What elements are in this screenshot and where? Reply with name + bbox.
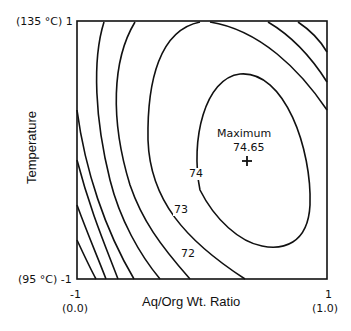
contour-label-74: 74 bbox=[188, 168, 204, 180]
y-top-tick: (135 °C) 1 bbox=[16, 15, 73, 28]
x-axis-title: Aq/Org Wt. Ratio bbox=[142, 294, 240, 309]
maximum-value: 74.65 bbox=[233, 141, 265, 154]
contour-72 bbox=[116, 22, 190, 279]
contour-label-72: 72 bbox=[180, 248, 196, 260]
x-right-actual: (1.0) bbox=[312, 302, 338, 315]
maximum-marker bbox=[242, 156, 252, 166]
y-bottom-tick: (95 °C) -1 bbox=[18, 273, 72, 286]
x-right-coded: 1 bbox=[325, 288, 332, 301]
contour-label-73: 73 bbox=[173, 204, 189, 216]
x-left-coded: -1 bbox=[70, 288, 81, 301]
contour-74 bbox=[197, 74, 310, 247]
contour-73b bbox=[210, 22, 327, 110]
y-axis-title: Temperature bbox=[24, 103, 39, 193]
maximum-title: Maximum bbox=[217, 127, 271, 140]
x-left-actual: (0.0) bbox=[62, 302, 88, 315]
